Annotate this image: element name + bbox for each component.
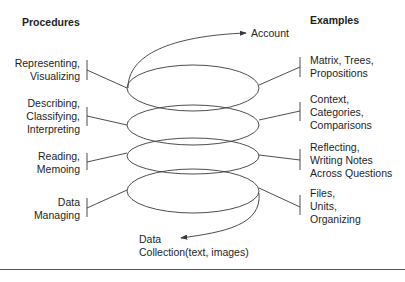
bottom-rule [0,269,405,270]
loop-4 [127,169,259,213]
data-collection-label-2: Collection(text, images) [139,246,249,259]
example-3: Reflecting, Writing Notes Across Questio… [310,141,392,180]
data-collection-label-1: Data [139,233,161,246]
example-2: Context, Categories, Comparisons [310,93,372,132]
procedure-4: Data Managing [34,196,80,222]
procedure-1: Representing, Visualizing [15,57,80,83]
loop-1 [127,65,259,111]
example-1: Matrix, Trees, Propositions [310,54,374,80]
data-collection-arrow [181,193,259,238]
example-4: Files, Units, Organizing [310,187,361,226]
account-label: Account [251,27,289,40]
procedure-2: Describing, Classifying, Interpreting [26,97,80,136]
procedure-3: Reading, Memoing [37,150,80,176]
account-arrow [128,33,246,88]
